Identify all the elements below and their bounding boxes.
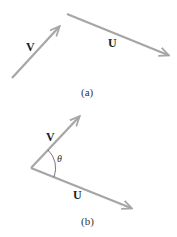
caption-b: (b) bbox=[81, 216, 94, 227]
angle-arc bbox=[48, 150, 56, 177]
label-v-a: V bbox=[26, 41, 35, 53]
vector-u-a bbox=[67, 14, 168, 55]
vector-v-b bbox=[31, 117, 79, 168]
label-theta: θ bbox=[57, 154, 62, 164]
label-u-b: U bbox=[73, 189, 82, 201]
label-v-b: V bbox=[46, 131, 55, 143]
panel-a bbox=[12, 14, 168, 78]
vector-v-a bbox=[12, 27, 59, 78]
caption-a: (a) bbox=[81, 87, 93, 98]
label-u-a: U bbox=[108, 37, 117, 49]
vector-diagram bbox=[0, 0, 177, 237]
